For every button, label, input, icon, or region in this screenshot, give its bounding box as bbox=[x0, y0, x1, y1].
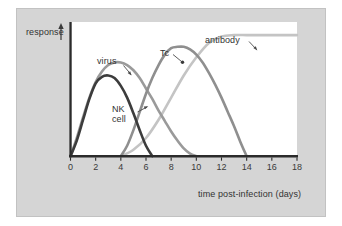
series-label-tc: Tc bbox=[160, 48, 169, 58]
x-tick-label-10: 10 bbox=[188, 162, 204, 172]
axis-lines bbox=[69, 22, 298, 157]
x-tick-label-4: 4 bbox=[113, 162, 129, 172]
x-tick-label-18: 18 bbox=[289, 162, 305, 172]
x-tick-label-14: 14 bbox=[239, 162, 255, 172]
x-tick-label-12: 12 bbox=[214, 162, 230, 172]
x-tick-label-2: 2 bbox=[88, 162, 104, 172]
x-tick-label-0: 0 bbox=[63, 162, 79, 172]
series-label-antibody: antibody bbox=[205, 35, 240, 45]
figure-container: response virus NK cell Tc antibody time … bbox=[0, 0, 342, 226]
leader-line-antibody bbox=[249, 42, 257, 51]
y-axis-label: response bbox=[26, 27, 64, 37]
series-label-virus: virus bbox=[97, 56, 117, 66]
series-antibody bbox=[121, 35, 297, 156]
leader-line-tc bbox=[173, 55, 184, 64]
x-axis-label: time post-infection (days) bbox=[198, 189, 301, 199]
x-tick-label-16: 16 bbox=[264, 162, 280, 172]
leader-line-nk-cell bbox=[138, 106, 149, 112]
x-axis-tick-marks bbox=[71, 157, 298, 160]
x-tick-label-8: 8 bbox=[163, 162, 179, 172]
series-label-nk-cell: NK cell bbox=[112, 104, 136, 124]
x-tick-label-6: 6 bbox=[138, 162, 154, 172]
